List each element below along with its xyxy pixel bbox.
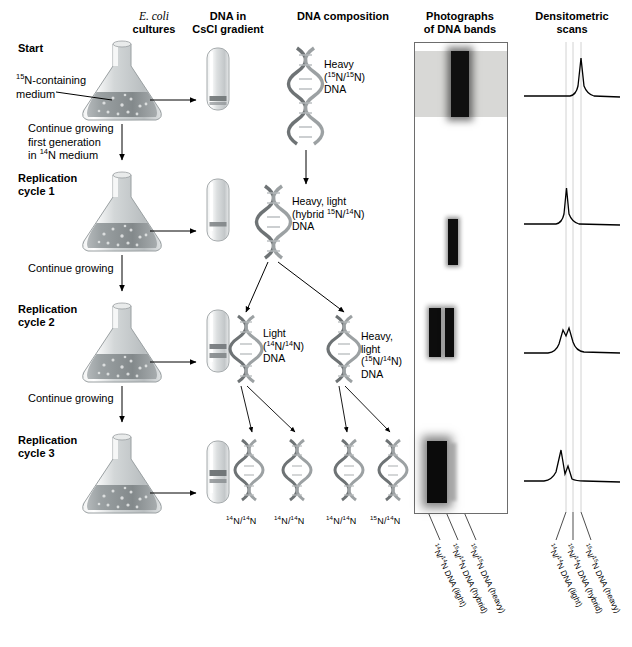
- dna-label-light-cycle2-l1: Light: [263, 327, 304, 340]
- helix-heavy: [289, 48, 323, 144]
- flask-start: [82, 41, 162, 121]
- dna-label-hybrid-cycle2: Heavy, light (15N/14N) DNA: [361, 330, 402, 380]
- helix-hybrid: [257, 186, 291, 258]
- dna-label-hybrid-cycle2-l4: DNA: [361, 368, 402, 381]
- dna-label-heavy-l1: Heavy: [324, 58, 365, 71]
- dna-label-hybrid-cycle2-l2: light: [361, 343, 402, 356]
- dna-label-hybrid-l1: Heavy, light: [292, 195, 364, 208]
- daughter-label-2: 14N/14N: [274, 516, 305, 526]
- photo-band-cycle3-hybrid: [451, 443, 457, 501]
- helix-daughter-2: [283, 440, 311, 500]
- tube-start: [207, 48, 229, 110]
- scan-traces: [524, 58, 620, 482]
- scan-guide-lines: [566, 42, 581, 512]
- photo-band-start-heavy: [451, 51, 469, 117]
- tube-cycle3: [207, 441, 229, 503]
- helix-light-cycle2: [230, 316, 262, 382]
- dna-label-heavy-l3: DNA: [324, 83, 365, 96]
- scan-trace-start: [524, 58, 620, 97]
- scan-trace-cycle3: [524, 450, 620, 482]
- daughter-label-3: 14N/14N: [326, 516, 357, 526]
- photo-band-cycle1-hybrid: [448, 219, 458, 265]
- tube-cycle1: [207, 179, 229, 241]
- band-legend-heavy: 15N/15N DNA (heavy): [474, 543, 549, 552]
- dna-label-light-cycle2-l2: (14N/14N): [263, 340, 304, 353]
- photo-band-cycle2-hybrid: [445, 308, 454, 357]
- helix-daughter-3: [335, 440, 363, 500]
- band-legend-leaders: [428, 512, 476, 540]
- dna-label-hybrid-l3: DNA: [292, 220, 364, 233]
- dna-label-hybrid-l2: (hybrid 15N/14N): [292, 208, 364, 221]
- flask-cycle2: [82, 303, 162, 383]
- helix-daughter-4: [379, 440, 407, 500]
- dna-label-hybrid-cycle2-l3: (15N/14N): [361, 355, 402, 368]
- tube-cycle2: [207, 310, 229, 372]
- flask-cycle1: [82, 172, 162, 252]
- helix-hybrid-cycle2: [328, 316, 360, 382]
- daughter-label-4: 15N/14N: [370, 516, 401, 526]
- flask-cycle3: [82, 434, 162, 514]
- dna-label-light-cycle2: Light (14N/14N) DNA: [263, 327, 304, 365]
- photo-row-start-film: [415, 51, 507, 117]
- scan-trace-cycle1: [524, 188, 620, 225]
- daughter-label-1: 14N/14N: [226, 516, 257, 526]
- dna-label-heavy-l2: (15N/15N): [324, 71, 365, 84]
- dna-label-heavy: Heavy (15N/15N) DNA: [324, 58, 365, 96]
- scan-trace-cycle2: [524, 328, 620, 353]
- dna-label-hybrid-cycle2-l1: Heavy,: [361, 330, 402, 343]
- dna-label-hybrid: Heavy, light (hybrid 15N/14N) DNA: [292, 195, 364, 233]
- photo-band-cycle3-light: [427, 441, 447, 503]
- scan-legend-leaders: [556, 512, 591, 540]
- dna-label-light-cycle2-l3: DNA: [263, 352, 304, 365]
- scan-legend-heavy: 15N/15N DNA (heavy): [589, 543, 632, 552]
- photographs-panel: [414, 42, 508, 514]
- photo-band-cycle2-light: [429, 308, 441, 357]
- helix-daughter-1: [235, 440, 263, 500]
